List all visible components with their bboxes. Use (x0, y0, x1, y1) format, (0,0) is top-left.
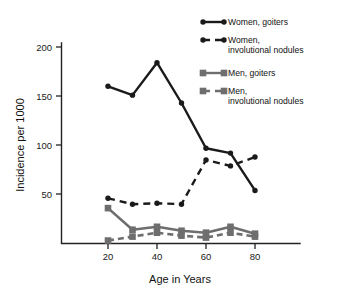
y-tick-label-150: 150 (36, 91, 52, 102)
legend-swatch-marker (221, 88, 228, 95)
data-point (154, 229, 161, 236)
data-point (203, 146, 208, 151)
line-chart: 200 150 100 50 20 40 60 80 Incidence per… (0, 0, 338, 291)
y-tick-label-100: 100 (36, 140, 52, 151)
data-point (105, 237, 112, 244)
data-point (129, 226, 136, 233)
data-point (252, 154, 257, 159)
data-point (228, 150, 233, 155)
data-point (105, 196, 110, 201)
data-point (129, 233, 136, 240)
x-axis-title: Age in Years (149, 273, 211, 285)
legend-swatch-marker (221, 37, 226, 42)
data-point (227, 224, 234, 231)
data-point (130, 202, 135, 207)
data-point (179, 202, 184, 207)
legend-swatch-marker (200, 19, 205, 24)
y-tick-label-200: 200 (36, 42, 52, 53)
legend-label: Women, (228, 35, 260, 45)
data-point (105, 205, 112, 212)
y-tick-label-50: 50 (41, 189, 52, 200)
legend-label: Men, goiters (228, 68, 275, 78)
legend-swatch-marker (200, 37, 205, 42)
x-tick-label-40: 40 (152, 251, 163, 262)
data-point (252, 188, 257, 193)
legend-label-continued: involutional nodules (228, 45, 304, 55)
legend-label: Women, goiters (228, 17, 288, 27)
x-tick-label-20: 20 (103, 251, 114, 262)
legend-swatch-marker (221, 19, 226, 24)
data-point (130, 92, 135, 97)
legend-label-continued: involutional nodules (228, 96, 304, 106)
chart-figure: 200 150 100 50 20 40 60 80 Incidence per… (0, 0, 338, 291)
x-tick-label-60: 60 (201, 251, 212, 262)
data-point (228, 163, 233, 168)
data-point (105, 84, 110, 89)
data-point (203, 157, 208, 162)
legend-label: Men, (228, 86, 247, 96)
data-point (154, 201, 159, 206)
y-axis-title: Incidence per 1000 (14, 98, 26, 192)
legend-swatch-marker (221, 70, 228, 77)
legend-swatch-marker (200, 88, 207, 95)
data-point (178, 232, 185, 239)
data-point (227, 229, 234, 236)
data-point (154, 224, 161, 231)
data-point (252, 233, 259, 240)
data-point (179, 100, 184, 105)
x-tick-label-80: 80 (250, 251, 261, 262)
data-point (203, 234, 210, 241)
legend-swatch-marker (200, 70, 207, 77)
data-point (154, 60, 159, 65)
